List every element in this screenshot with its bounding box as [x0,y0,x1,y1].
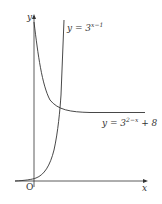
curve-exponential-decay [34,22,145,113]
curve-label-decay: y = 32−x + 8 [102,117,157,128]
y-axis-label: y [27,13,32,22]
origin-label: O [26,183,33,192]
x-axis-label: x [142,184,147,193]
curve-exponential-growth [15,20,64,181]
curve-label-growth: y = 3x−1 [67,22,103,33]
y-axis-arrow-icon [32,14,36,19]
